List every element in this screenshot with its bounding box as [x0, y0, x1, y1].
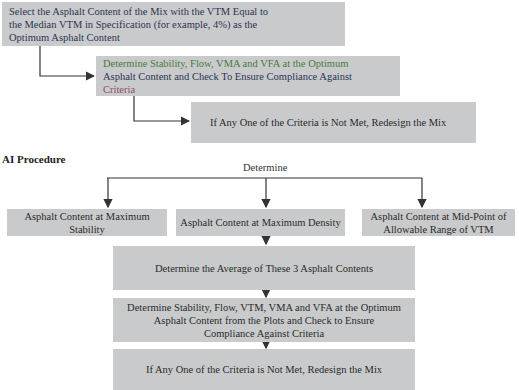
- step-redesign-if-not-met: If Any One of the Criteria is Not Met, R…: [191, 102, 476, 143]
- step-text: If Any One of the Criteria is Not Met, R…: [210, 116, 476, 129]
- ai-procedure-heading: AI Procedure: [2, 153, 65, 165]
- step-line: Optimum Asphalt Content: [9, 31, 345, 44]
- step-line: Determine Stability, Flow, VTM, VMA and …: [127, 301, 401, 314]
- branch-line: Stability: [69, 223, 105, 236]
- branch-max-density: Asphalt Content at Maximum Density: [176, 209, 345, 236]
- branch-line: Asphalt Content at Mid-Point of: [371, 210, 507, 223]
- step-check-criteria: Determine Stability, Flow, VTM, VMA and …: [113, 298, 415, 342]
- branch-mid-point-vtm: Asphalt Content at Mid-Point of Allowabl…: [362, 209, 515, 236]
- branch-line: Allowable Range of VTM: [383, 223, 493, 236]
- step-line: Asphalt Content and Check To Ensure Comp…: [103, 70, 400, 83]
- step-select-optimum-asphalt: Select the Asphalt Content of the Mix wi…: [2, 2, 345, 46]
- step-line: Compliance Against Criteria: [204, 327, 324, 340]
- step-text: If Any One of the Criteria is Not Met, R…: [146, 363, 382, 376]
- step-line: Determine Stability, Flow, VMA and VFA a…: [103, 57, 400, 70]
- step-line: the Median VTM in Specification (for exa…: [9, 18, 345, 31]
- branch-line: Asphalt Content at Maximum: [24, 210, 149, 223]
- step-text: Determine the Average of These 3 Asphalt…: [155, 262, 373, 275]
- step-line: Criteria: [103, 83, 400, 96]
- step-average-contents: Determine the Average of These 3 Asphalt…: [113, 246, 415, 290]
- branch-max-stability: Asphalt Content at Maximum Stability: [7, 209, 167, 236]
- step-line: Select the Asphalt Content of the Mix wi…: [9, 5, 345, 18]
- branch-line: Asphalt Content at Maximum Density: [180, 216, 340, 229]
- step-final-redesign: If Any One of the Criteria is Not Met, R…: [113, 349, 415, 390]
- step-line: Asphalt Content from the Plots and Check…: [154, 314, 374, 327]
- step-determine-stability-flow: Determine Stability, Flow, VMA and VFA a…: [96, 56, 400, 96]
- determine-label: Determine: [243, 162, 287, 173]
